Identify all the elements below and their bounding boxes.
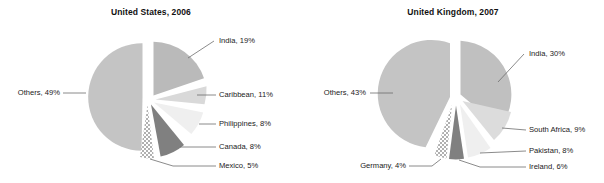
pie-label-germany: Germany, 4%	[330, 162, 406, 170]
leader-line-india	[188, 41, 214, 58]
pie-label-others: Others, 49%	[2, 89, 60, 97]
pie-slice-others	[378, 40, 450, 147]
pie-slice-others	[88, 43, 142, 151]
leader-line-south-africa	[502, 128, 526, 130]
pie-label-others: Others, 43%	[308, 89, 366, 97]
two-pie-chart-figure: United States, 2006	[0, 0, 604, 183]
pie-label-caribbean: Caribbean, 11%	[219, 91, 273, 99]
leader-line-mexico	[150, 159, 216, 166]
leader-line-ireland	[459, 160, 526, 167]
pie-label-pakistan: Pakistan, 8%	[529, 147, 573, 155]
pie-label-india: India, 19%	[219, 37, 255, 45]
pie-label-south-africa: South Africa, 9%	[529, 126, 585, 134]
pie-slice-india	[154, 42, 205, 96]
pie-label-india: India, 30%	[529, 50, 565, 58]
leader-line-germany	[409, 159, 441, 166]
pie-label-canada: Canada, 8%	[219, 143, 261, 151]
pie-label-ireland: Ireland, 6%	[529, 163, 567, 171]
pie-label-mexico: Mexico, 5%	[219, 162, 258, 170]
chart-panel-united-kingdom: United Kingdom, 2007	[302, 0, 604, 183]
chart-panel-united-states: United States, 2006	[0, 0, 302, 183]
leader-line-pakistan	[480, 151, 526, 153]
pie-label-philippines: Philippines, 8%	[219, 120, 271, 128]
